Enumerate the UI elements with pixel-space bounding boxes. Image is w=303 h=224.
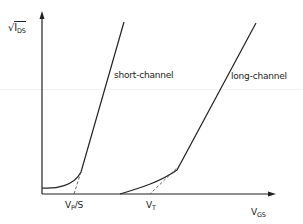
vt-label: VT xyxy=(146,200,156,212)
long-channel-curve xyxy=(120,23,256,194)
short-channel-tangent-dashed xyxy=(74,172,81,194)
axes xyxy=(42,14,272,194)
vp-over-s-label: VP/S xyxy=(65,200,83,212)
y-axis-arrow-icon xyxy=(40,11,45,19)
x-axis-label: VGS xyxy=(251,207,266,219)
mosfet-sqrt-ids-vs-vgs-diagram xyxy=(0,0,303,224)
long-channel-label: long-channel xyxy=(231,71,287,81)
short-channel-label: short-channel xyxy=(114,70,173,80)
y-axis-label: √IDS xyxy=(8,22,26,35)
x-axis-arrow-icon xyxy=(268,192,276,197)
short-channel-curve xyxy=(42,22,124,188)
long-channel-tangent-dashed xyxy=(150,165,180,194)
